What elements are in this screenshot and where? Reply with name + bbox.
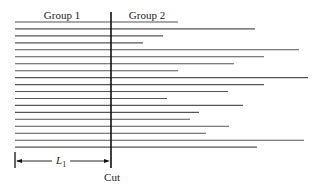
- dimension-arrowhead-right: [104, 159, 110, 163]
- dimension-label-subscript: 1: [62, 160, 66, 169]
- dimension-arrowhead-left: [16, 159, 22, 163]
- dimension-label: L1: [55, 154, 66, 169]
- fiber-lines: [15, 22, 308, 147]
- dimension-label-main: L: [55, 154, 62, 166]
- group-1-label: Group 1: [44, 9, 80, 21]
- group-2-label: Group 2: [129, 9, 165, 21]
- cut-label: Cut: [104, 171, 120, 183]
- diagram-canvas: Group 1 Group 2 L1 Cut: [0, 0, 319, 189]
